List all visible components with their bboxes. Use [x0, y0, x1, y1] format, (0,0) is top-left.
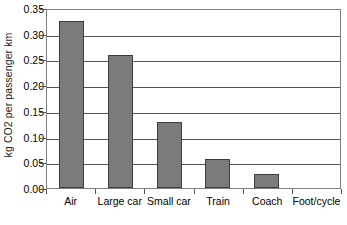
x-axis-tick-mark: [95, 189, 96, 194]
x-axis-tick-label: Train: [194, 195, 243, 213]
bar: [157, 122, 182, 188]
y-axis-tick-mark: [40, 189, 46, 190]
x-axis-tick-mark: [341, 189, 342, 194]
bar-slot: [291, 10, 340, 188]
plot-area: [46, 9, 341, 189]
x-axis-tick-label: Coach: [243, 195, 292, 213]
y-axis-tick-mark: [40, 163, 46, 164]
bar-slot: [96, 10, 145, 188]
bar-slot: [242, 10, 291, 188]
y-axis-tick-mark: [40, 138, 46, 139]
bar: [254, 174, 279, 188]
x-axis-tick-marks: [46, 189, 341, 194]
y-axis-tick-mark: [40, 60, 46, 61]
x-axis-tick-mark: [194, 189, 195, 194]
x-axis-tick-label: Foot/cycle: [292, 195, 341, 213]
bar-chart: kg CO2 per passenger km 0.350.300.250.20…: [0, 0, 347, 225]
x-axis-tick-labels: AirLarge carSmall carTrainCoachFoot/cycl…: [46, 195, 341, 213]
x-axis-tick-mark: [292, 189, 293, 194]
y-axis-tick-mark: [40, 9, 46, 10]
x-axis-tick-label: Small car: [144, 195, 193, 213]
bar-slot: [193, 10, 242, 188]
x-axis-tick-mark: [144, 189, 145, 194]
x-axis-tick-mark: [243, 189, 244, 194]
bar-slot: [47, 10, 96, 188]
y-axis-tick-mark: [40, 86, 46, 87]
y-axis-tick-mark: [40, 112, 46, 113]
x-axis-tick-label: Large car: [95, 195, 144, 213]
bar: [108, 55, 133, 188]
bars-group: [47, 10, 340, 188]
x-axis-tick-label: Air: [46, 195, 95, 213]
bar-slot: [145, 10, 194, 188]
y-axis-tick-labels: 0.350.300.250.200.150.100.050.00: [14, 0, 44, 190]
bar: [59, 21, 84, 188]
x-axis-tick-mark: [46, 189, 47, 194]
y-axis-title-text: kg CO2 per passenger km: [2, 33, 14, 158]
y-axis-tick-mark: [40, 35, 46, 36]
bar: [205, 159, 230, 188]
